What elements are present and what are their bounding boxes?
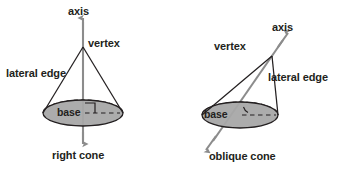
cone-diagram: axis vertex lateral edge base right cone… bbox=[0, 0, 338, 170]
right-cone-axis-label: axis bbox=[68, 6, 89, 17]
right-cone-caption: right cone bbox=[52, 150, 104, 161]
oblique-cone-caption: oblique cone bbox=[209, 151, 276, 162]
oblique-cone-axis-arrow-down bbox=[206, 136, 216, 150]
oblique-cone-vertex-label: vertex bbox=[214, 41, 246, 52]
oblique-cone-lateral-edge-label: lateral edge bbox=[268, 72, 328, 83]
right-cone-base-label: base bbox=[57, 107, 81, 118]
right-cone-vertex-label: vertex bbox=[88, 38, 120, 49]
oblique-cone-axis-label: axis bbox=[272, 22, 293, 33]
oblique-cone-axis-arrow-up bbox=[278, 33, 288, 47]
right-cone-lateral-edge-label: lateral edge bbox=[6, 68, 66, 79]
oblique-cone-lateral-edge-right bbox=[272, 56, 278, 115]
oblique-cone-base-label: base bbox=[204, 109, 228, 120]
